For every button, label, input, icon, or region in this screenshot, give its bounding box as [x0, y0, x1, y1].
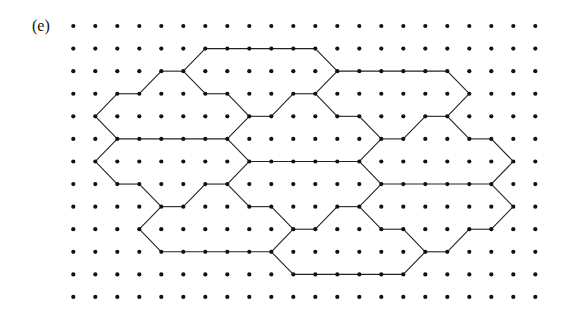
lattice-dot	[181, 182, 185, 186]
lattice-dot	[93, 159, 97, 163]
path-segment	[315, 207, 337, 230]
lattice-dot	[467, 137, 471, 141]
lattice-dot	[401, 272, 405, 276]
lattice-dot	[159, 24, 163, 28]
lattice-dot	[379, 137, 383, 141]
lattice-dot	[115, 295, 119, 299]
lattice-dot	[269, 92, 273, 96]
lattice-dot	[247, 46, 251, 50]
lattice-dot	[225, 159, 229, 163]
lattice-dot	[489, 24, 493, 28]
path-segment	[227, 184, 249, 207]
lattice-dot	[401, 69, 405, 73]
lattice-dot	[93, 137, 97, 141]
lattice-dot	[445, 137, 449, 141]
lattice-dot	[93, 182, 97, 186]
lattice-dot	[423, 137, 427, 141]
lattice-dot	[159, 159, 163, 163]
lattice-dot	[93, 295, 97, 299]
lattice-dot	[357, 182, 361, 186]
lattice-dot	[379, 205, 383, 209]
lattice-dot	[71, 137, 75, 141]
lattice-dot	[489, 250, 493, 254]
lattice-dot	[181, 92, 185, 96]
lattice-dot	[511, 46, 515, 50]
lattice-dot	[357, 272, 361, 276]
path-segment	[183, 49, 205, 72]
lattice-dot	[291, 46, 295, 50]
lattice-dot	[401, 46, 405, 50]
lattice-dot	[511, 227, 515, 231]
lattice-dot	[291, 227, 295, 231]
lattice-dot	[93, 114, 97, 118]
lattice-dot	[357, 92, 361, 96]
lattice-dot	[313, 182, 317, 186]
lattice-dot	[467, 24, 471, 28]
lattice-dot	[511, 205, 515, 209]
lattice-dot	[379, 159, 383, 163]
lattice-dot	[71, 159, 75, 163]
lattice-dot	[115, 159, 119, 163]
lattice-dot	[511, 182, 515, 186]
lattice-dot	[533, 295, 537, 299]
lattice-dot	[291, 272, 295, 276]
lattice-dot	[401, 137, 405, 141]
lattice-dot	[423, 92, 427, 96]
lattice-dot	[533, 182, 537, 186]
path-segment	[491, 184, 513, 207]
lattice-dot	[181, 227, 185, 231]
lattice-dot	[335, 114, 339, 118]
lattice-dot	[423, 182, 427, 186]
path-segment	[447, 71, 469, 94]
lattice-dot	[159, 137, 163, 141]
lattice-dot	[203, 114, 207, 118]
lattice-dot	[137, 272, 141, 276]
lattice-dot	[137, 46, 141, 50]
lattice-dot	[489, 92, 493, 96]
lattice-dot	[401, 250, 405, 254]
lattice-dot	[313, 205, 317, 209]
lattice-dot	[423, 46, 427, 50]
lattice-dot	[269, 159, 273, 163]
path-segment	[315, 71, 337, 94]
lattice-dot	[225, 250, 229, 254]
lattice-dot	[269, 137, 273, 141]
lattice-dot	[203, 137, 207, 141]
path-segment	[359, 116, 381, 139]
lattice-dot	[533, 272, 537, 276]
lattice-dot	[423, 205, 427, 209]
lattice-dot	[225, 24, 229, 28]
lattice-dot	[313, 137, 317, 141]
lattice-dot	[225, 92, 229, 96]
lattice-dot	[247, 182, 251, 186]
lattice-dot	[203, 182, 207, 186]
lattice-dot	[335, 272, 339, 276]
lattice-dot	[159, 227, 163, 231]
path-segment	[359, 184, 381, 207]
lattice-dot	[225, 114, 229, 118]
lattice-dot	[203, 69, 207, 73]
lattice-dot	[379, 182, 383, 186]
lattice-dot	[181, 69, 185, 73]
lattice-dot	[181, 159, 185, 163]
lattice-dot	[467, 69, 471, 73]
path-segment	[403, 252, 425, 275]
lattice-dot	[533, 205, 537, 209]
lattice-dot	[247, 205, 251, 209]
lattice-dot	[115, 69, 119, 73]
lattice-dot	[71, 205, 75, 209]
lattice-dot	[115, 205, 119, 209]
lattice-dot	[181, 137, 185, 141]
lattice-dot	[379, 227, 383, 231]
lattice-dot	[357, 24, 361, 28]
path-segment	[95, 139, 117, 162]
lattice-dot	[115, 137, 119, 141]
lattice-dot	[269, 250, 273, 254]
lattice-dot	[291, 69, 295, 73]
path-segment	[227, 116, 249, 139]
lattice-dot	[445, 46, 449, 50]
path-segment	[403, 229, 425, 252]
lattice-dot	[269, 182, 273, 186]
lattice-dot	[401, 205, 405, 209]
lattice-dot	[313, 114, 317, 118]
